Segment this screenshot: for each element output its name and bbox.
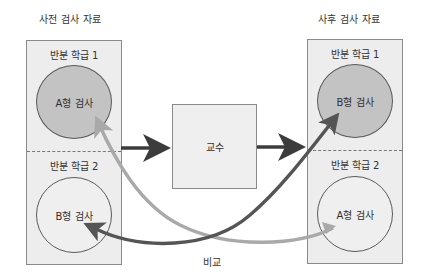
post-test-caption: 사후 검사 자료 (318, 11, 381, 26)
post-test-group-2-test: A형 검사 (336, 207, 373, 222)
pre-test-caption: 사전 검사 자료 (39, 11, 102, 26)
post-test-group-1-test: B형 검사 (336, 94, 373, 109)
pre-test-group-1-label: 반분 학급 1 (27, 47, 121, 62)
pre-test-group-2-label: 반분 학급 2 (27, 158, 121, 173)
post-test-group-1-circle: B형 검사 (317, 64, 393, 138)
pre-test-group-1-test: A형 검사 (55, 95, 92, 110)
instruction-label: 교수 (206, 139, 224, 154)
comparison-label: 비교 (203, 254, 222, 269)
pre-test-group-2-circle: B형 검사 (36, 177, 112, 253)
pre-test-group-2-test: B형 검사 (55, 208, 92, 223)
pre-test-divider (27, 151, 121, 152)
post-test-group-2-label: 반분 학급 2 (308, 157, 402, 172)
post-test-group-2-circle: A형 검사 (317, 176, 393, 252)
post-test-group-1-label: 반분 학급 1 (308, 46, 402, 61)
instruction-box: 교수 (172, 104, 257, 189)
post-test-divider (308, 150, 402, 151)
pre-test-group-1-circle: A형 검사 (36, 65, 112, 139)
